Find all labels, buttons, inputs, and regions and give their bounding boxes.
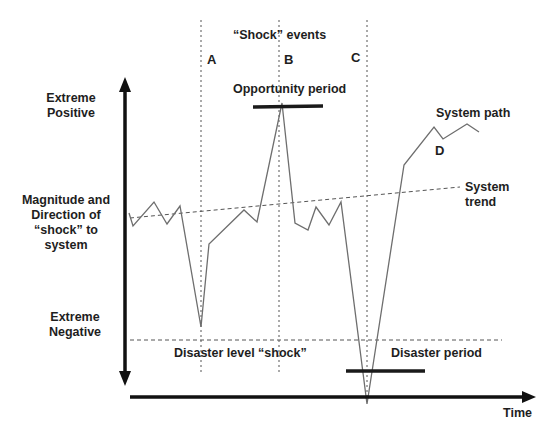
diagram-title: “Shock” events <box>233 28 326 43</box>
opportunity-period-label: Opportunity period <box>233 82 346 97</box>
y-axis-down-arrow-icon <box>119 371 131 386</box>
y-axis-up-arrow-icon <box>119 77 131 92</box>
extreme-positive-label: Extreme Positive <box>16 91 126 121</box>
system-trend-label: System trend <box>465 180 509 210</box>
extreme-negative-line1: Extreme <box>20 310 130 325</box>
extreme-negative-line2: Negative <box>20 325 130 340</box>
extreme-positive-line1: Extreme <box>16 91 126 106</box>
system-trend-label-line2: trend <box>465 195 509 210</box>
system-trend-label-line1: System <box>465 180 509 195</box>
time-axis-label: Time <box>503 406 532 421</box>
event-d-label: D <box>435 143 444 158</box>
disaster-level-label: Disaster level “shock” <box>174 346 307 361</box>
extreme-positive-line2: Positive <box>16 106 126 121</box>
event-a-label: A <box>207 52 216 67</box>
x-axis-arrow-icon <box>522 391 536 403</box>
event-b-label: B <box>284 52 293 67</box>
magnitude-line3: “shock” to <box>6 223 126 238</box>
magnitude-line4: system <box>6 238 126 253</box>
magnitude-direction-label: Magnitude and Direction of “shock” to sy… <box>6 193 126 253</box>
event-c-label: C <box>351 50 360 65</box>
system-path-label: System path <box>436 106 510 121</box>
system-trend-line <box>130 187 460 218</box>
extreme-negative-label: Extreme Negative <box>20 310 130 340</box>
magnitude-line2: Direction of <box>6 208 126 223</box>
magnitude-line1: Magnitude and <box>6 193 126 208</box>
shock-diagram: “Shock” events A B C D Opportunity perio… <box>0 0 555 430</box>
disaster-period-label: Disaster period <box>391 346 482 361</box>
opportunity-period-bar <box>253 106 323 107</box>
